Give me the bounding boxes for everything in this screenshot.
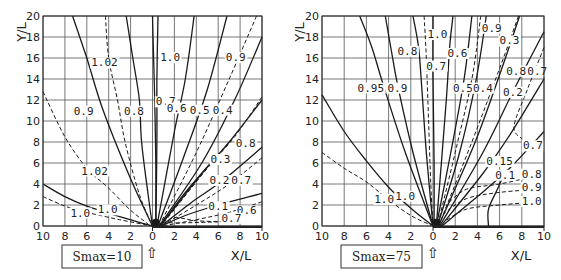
y-tick-label: 20 xyxy=(305,10,319,23)
contour-label: 0.6 xyxy=(447,47,467,60)
contour-label: 1.0 xyxy=(70,207,90,220)
contour-label: 0.7 xyxy=(426,60,446,73)
x-tick-label: 10 xyxy=(315,230,329,243)
legend-box: Smax=10 xyxy=(62,245,142,268)
contour-label: 0.8 xyxy=(506,65,526,78)
contour-label: 0.6 xyxy=(167,102,187,115)
y-tick-label: 4 xyxy=(312,178,319,191)
contour-label: 0.3 xyxy=(500,34,520,47)
contour-label: 1.0 xyxy=(374,193,394,206)
legend-label: Smax=75 xyxy=(352,250,411,264)
contour-label: 1.02 xyxy=(81,165,108,178)
y-tick-label: 8 xyxy=(33,136,40,149)
contour-label: 0.8 xyxy=(522,168,542,181)
contour-label: 1.0 xyxy=(427,28,447,41)
x-tick-label: 8 xyxy=(61,230,68,243)
y-tick-label: 12 xyxy=(26,94,40,107)
contour-label: 1.0 xyxy=(395,190,415,203)
y-tick-label: 12 xyxy=(305,94,319,107)
contour-label: 0.9 xyxy=(387,82,407,95)
x-axis-title: X/L xyxy=(231,248,252,263)
contour-label: 0.5 xyxy=(453,82,473,95)
contour-label: 0.9 xyxy=(482,22,502,35)
grid xyxy=(43,16,262,226)
x-tick-label: 4 xyxy=(385,230,392,243)
source-arrow-icon: ⇧ xyxy=(427,244,440,262)
contour-label: 0.9 xyxy=(522,181,542,194)
x-tick-label: 10 xyxy=(36,230,50,243)
x-tick-label: 6 xyxy=(83,230,90,243)
x-tick-label: 10 xyxy=(255,230,269,243)
x-tick-label: 4 xyxy=(193,230,200,243)
y-tick-label: 14 xyxy=(26,73,40,86)
contour-label: 0.3 xyxy=(211,153,231,166)
x-tick-label: 2 xyxy=(407,230,414,243)
x-tick-label: 8 xyxy=(518,230,525,243)
x-tick-label: 8 xyxy=(237,230,244,243)
y-tick-label: 10 xyxy=(305,115,319,128)
x-tick-label: 10 xyxy=(537,230,551,243)
contour-label: 0.9 xyxy=(74,105,94,118)
contour-labels: 1.00.90.80.60.30.70.80.70.950.90.50.40.2… xyxy=(357,22,549,208)
contour-label: 0.1 xyxy=(495,169,515,182)
x-tick-label: 8 xyxy=(341,230,348,243)
y-axis-title: Y/L xyxy=(292,21,307,42)
figure-canvas: 1.021.00.90.70.90.80.60.50.40.80.30.20.7… xyxy=(0,0,561,280)
x-tick-label: 4 xyxy=(474,230,481,243)
contour-label: 0.2 xyxy=(503,86,523,99)
x-tick-label: 2 xyxy=(452,230,459,243)
x-tick-label: 6 xyxy=(496,230,503,243)
chart-panel-smax-75: 1.00.90.80.60.30.70.80.70.950.90.50.40.2… xyxy=(292,10,551,268)
y-tick-label: 10 xyxy=(26,115,40,128)
y-tick-label: 8 xyxy=(312,136,319,149)
contour-label: 0.2 xyxy=(209,174,229,187)
chart-panel-smax-10: 1.021.00.90.70.90.80.60.50.40.80.30.20.7… xyxy=(14,10,269,268)
y-tick-label: 14 xyxy=(305,73,319,86)
contour-label: 0.7 xyxy=(221,212,241,225)
contour-label: 0.8 xyxy=(397,45,417,58)
source-arrow-icon: ⇧ xyxy=(146,244,159,262)
x-tick-label: 4 xyxy=(105,230,112,243)
y-tick-label: 4 xyxy=(33,178,40,191)
contour-label: 0.7 xyxy=(523,139,543,152)
contour-line xyxy=(169,222,218,223)
contour-label: 0.5 xyxy=(190,104,210,117)
legend-box: Smax=75 xyxy=(341,245,422,268)
x-tick-label: 0 xyxy=(149,230,156,243)
contour-label: 0.4 xyxy=(213,104,233,117)
y-tick-label: 18 xyxy=(305,31,319,44)
y-axis-title: Y/L xyxy=(14,21,29,42)
x-axis-title: X/L xyxy=(511,248,532,263)
y-tick-label: 2 xyxy=(312,199,319,212)
axes: 024681012141618201086420246810 xyxy=(26,10,269,243)
x-tick-label: 6 xyxy=(363,230,370,243)
contour-line xyxy=(322,95,433,226)
contour-label: 0.95 xyxy=(358,82,385,95)
contour-label: 1.0 xyxy=(522,195,542,208)
contour-label: 1.0 xyxy=(160,51,180,64)
x-tick-label: 2 xyxy=(171,230,178,243)
contour-label: 0.15 xyxy=(486,155,513,168)
contour-label: 0.9 xyxy=(226,51,246,64)
contour-label: 0.7 xyxy=(231,174,251,187)
contour-label: 1.02 xyxy=(91,56,118,69)
x-tick-label: 0 xyxy=(430,230,437,243)
y-tick-label: 2 xyxy=(33,199,40,212)
contour-label: 0.8 xyxy=(124,105,144,118)
x-tick-label: 2 xyxy=(127,230,134,243)
y-tick-label: 20 xyxy=(26,10,40,23)
y-tick-label: 16 xyxy=(26,52,40,65)
y-tick-label: 6 xyxy=(312,157,319,170)
contour-label: 1.0 xyxy=(98,203,118,216)
contour-label: 0.4 xyxy=(473,82,493,95)
x-tick-label: 6 xyxy=(215,230,222,243)
y-tick-label: 6 xyxy=(33,157,40,170)
y-tick-label: 16 xyxy=(305,52,319,65)
legend-label: Smax=10 xyxy=(73,250,132,264)
contour-label: 0.8 xyxy=(236,137,256,150)
